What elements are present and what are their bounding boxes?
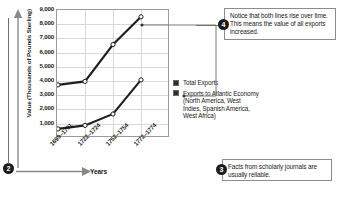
callout-4-badge: 4 xyxy=(218,19,229,30)
y-tick-labels: 9,000 8,000 7,000 6,000 5,000 4,000 3,00… xyxy=(26,9,54,137)
y-tick-8000: 8,000 xyxy=(28,20,54,26)
callout-3-text: Facts from scholarly journals are usuall… xyxy=(228,163,317,178)
y-tick-4000: 4,000 xyxy=(28,77,54,83)
callout-3-box: Facts from scholarly journals are usuall… xyxy=(222,159,332,181)
y-tick-3000: 3,000 xyxy=(28,91,54,97)
callout-4-box: Notice that both lines rise over time. T… xyxy=(224,8,336,40)
y-tick-5000: 5,000 xyxy=(28,63,54,69)
y-tick-7000: 7,000 xyxy=(28,34,54,40)
callout-4-leader xyxy=(196,25,220,26)
callout-3-badge: 3 xyxy=(216,164,227,175)
data-point-atlantic-2 xyxy=(83,123,87,127)
y-tick-1000: 1,000 xyxy=(28,120,54,126)
data-point-total-2 xyxy=(83,79,87,83)
data-point-total-1 xyxy=(57,83,60,87)
y-tick-9000: 9,000 xyxy=(28,6,54,12)
callout-2-leader-vertical xyxy=(8,18,9,164)
data-point-total-3 xyxy=(111,42,115,46)
data-point-atlantic-3 xyxy=(111,112,115,116)
callout-4-connector xyxy=(140,22,226,100)
line-total-exports xyxy=(58,17,141,85)
x-axis-arrow xyxy=(16,166,92,178)
y-tick-6000: 6,000 xyxy=(28,49,54,55)
y-tick-2000: 2,000 xyxy=(28,105,54,111)
y-axis-arrow xyxy=(12,8,24,168)
x-axis-title: Years xyxy=(90,168,107,175)
data-point-total-4 xyxy=(139,15,143,19)
callout-2-badge: 2 xyxy=(3,163,14,174)
line-atlantic-exports xyxy=(58,80,141,129)
callout-4-text: Notice that both lines rise over time. T… xyxy=(230,12,328,35)
chart-figure: Value (Thousands of Pounds Sterling) 9,0… xyxy=(0,0,340,197)
